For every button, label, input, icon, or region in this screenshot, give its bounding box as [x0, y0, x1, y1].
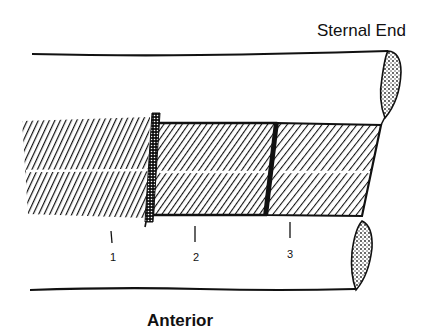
marker-label-2: 2	[193, 251, 199, 263]
marker-ticks	[111, 222, 290, 243]
lower-sternal-end-cross-section	[352, 221, 373, 290]
upper-rib	[32, 51, 401, 118]
lower-rib-line	[30, 288, 355, 290]
sternal-end-label: Sternal End	[317, 21, 406, 41]
lower-rib	[30, 221, 372, 290]
intercostal-muscle-band	[22, 113, 385, 227]
muscle-zone-middle	[153, 123, 276, 215]
marker-label-3: 3	[287, 248, 293, 260]
marker-tick-1	[111, 231, 112, 243]
muscle-zone-left	[22, 117, 150, 218]
upper-sternal-end-cross-section	[381, 51, 401, 118]
upper-rib-line	[32, 51, 388, 55]
rib-diagram	[0, 0, 426, 332]
muscle-zone-right	[266, 123, 381, 216]
marker-label-1: 1	[110, 251, 116, 263]
anterior-label: Anterior	[147, 311, 213, 331]
